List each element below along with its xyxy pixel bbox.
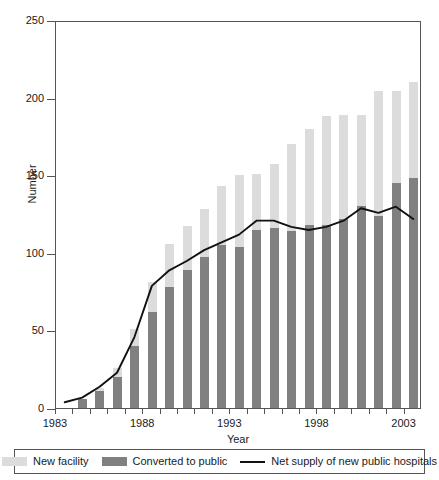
- y-axis-tick: [47, 21, 55, 22]
- x-axis-tick: [386, 409, 387, 414]
- x-axis-tick: [229, 409, 230, 414]
- y-axis-tick-label: 250: [0, 15, 44, 26]
- net-supply-line: [56, 22, 422, 410]
- legend-label: Net supply of new public hospitals: [271, 456, 437, 467]
- y-axis-tick-label: 100: [0, 248, 44, 259]
- legend-item: New facility: [2, 456, 89, 467]
- x-axis-tick: [264, 409, 265, 414]
- x-axis-tick: [212, 409, 213, 414]
- legend-label: Converted to public: [133, 456, 228, 467]
- x-axis-tick: [334, 409, 335, 414]
- x-axis-tick-label: 1993: [209, 417, 249, 429]
- x-axis-tick-label: 1998: [296, 417, 336, 429]
- chart-legend: New facilityConverted to publicNet suppl…: [14, 449, 425, 474]
- chart-figure: 050100150200250 Number 19831988199319982…: [0, 0, 439, 480]
- x-axis-tick-label: 2003: [384, 417, 424, 429]
- x-axis-tick: [194, 409, 195, 414]
- legend-item: Net supply of new public hospitals: [240, 456, 437, 467]
- net-supply-polyline: [65, 207, 414, 403]
- y-axis-tick-label: 0: [0, 403, 44, 414]
- x-axis-title: Year: [55, 433, 421, 445]
- y-axis-title: Number: [26, 144, 38, 224]
- y-axis-title-text: Number: [26, 164, 38, 203]
- legend-line-marker: [240, 461, 265, 463]
- y-axis-tick: [47, 331, 55, 332]
- x-axis-tick: [72, 409, 73, 414]
- y-axis-tick: [47, 254, 55, 255]
- x-axis-tick: [90, 409, 91, 414]
- x-axis-tick: [351, 409, 352, 414]
- legend-swatch: [2, 457, 27, 466]
- x-axis-tick: [369, 409, 370, 414]
- y-axis-tick-label: 50: [0, 325, 44, 336]
- x-axis-tick: [282, 409, 283, 414]
- x-axis-tick: [247, 409, 248, 414]
- legend-label: New facility: [33, 456, 89, 467]
- legend-item: Converted to public: [102, 456, 228, 467]
- x-axis-tick: [160, 409, 161, 414]
- x-axis-tick: [316, 409, 317, 414]
- y-axis-tick: [47, 409, 55, 410]
- x-axis-tick: [55, 409, 56, 414]
- x-axis-tick-label: 1988: [122, 417, 162, 429]
- y-axis-tick: [47, 176, 55, 177]
- plot-area: [55, 21, 421, 409]
- x-axis-tick: [125, 409, 126, 414]
- legend-swatch: [102, 457, 127, 466]
- x-axis-tick: [107, 409, 108, 414]
- x-axis-tick: [299, 409, 300, 414]
- y-axis-tick: [47, 99, 55, 100]
- x-axis-tick: [404, 409, 405, 414]
- x-axis-tick-label: 1983: [35, 417, 75, 429]
- x-axis-tick: [142, 409, 143, 414]
- x-axis-tick: [177, 409, 178, 414]
- y-axis-tick-label: 200: [0, 93, 44, 104]
